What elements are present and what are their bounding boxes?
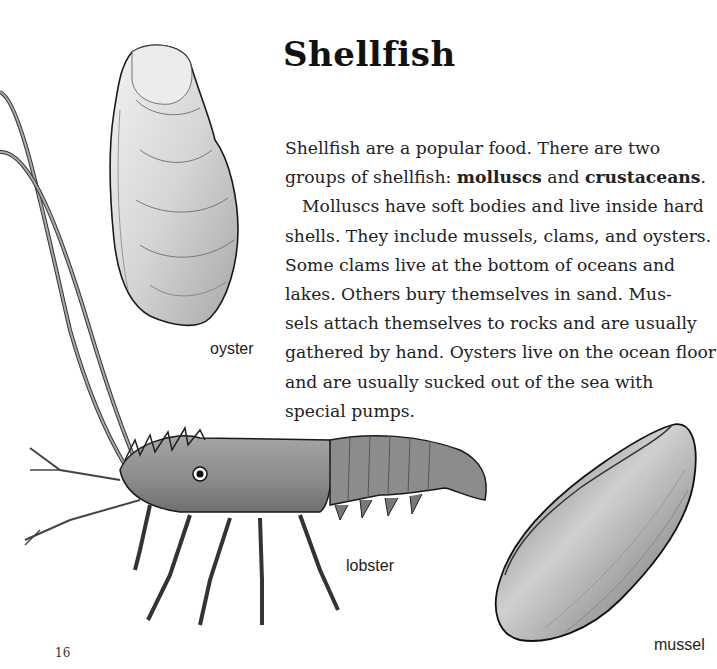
- term-molluscs: molluscs: [457, 167, 542, 187]
- page-number: 16: [55, 646, 70, 660]
- mussel-illustration: [496, 424, 696, 641]
- page-title: Shellfish: [283, 34, 456, 74]
- term-crustaceans: crustaceans: [585, 167, 700, 187]
- paragraph-2-line-2: shells. They include mussels, clams, and…: [285, 222, 717, 251]
- mussel-label: mussel: [654, 636, 705, 654]
- oyster-illustration: [110, 45, 238, 325]
- paragraph-2-line-3: Some clams live at the bottom of oceans …: [285, 251, 717, 280]
- paragraph-1-line-1: Shellfish are a popular food. There are …: [285, 134, 717, 163]
- paragraph-1-line-2: groups of shellfish: molluscs and crusta…: [285, 163, 717, 192]
- paragraph-2-line-6: gathered by hand. Oysters live on the oc…: [285, 338, 717, 367]
- body-text: Shellfish are a popular food. There are …: [285, 134, 717, 426]
- paragraph-2-line-5: sels attach themselves to rocks and are …: [285, 309, 717, 338]
- text-fragment: and: [542, 167, 585, 187]
- lobster-label: lobster: [346, 557, 394, 575]
- paragraph-2-line-8: special pumps.: [285, 397, 717, 426]
- lobster-illustration: [25, 428, 486, 625]
- text-fragment: groups of shellfish:: [285, 167, 457, 187]
- text-fragment: .: [701, 167, 706, 187]
- paragraph-2-line-1: Molluscs have soft bodies and live insid…: [285, 192, 717, 221]
- paragraph-2-line-7: and are usually sucked out of the sea wi…: [285, 368, 717, 397]
- oyster-label: oyster: [210, 340, 254, 358]
- paragraph-2-line-4: lakes. Others bury themselves in sand. M…: [285, 280, 717, 309]
